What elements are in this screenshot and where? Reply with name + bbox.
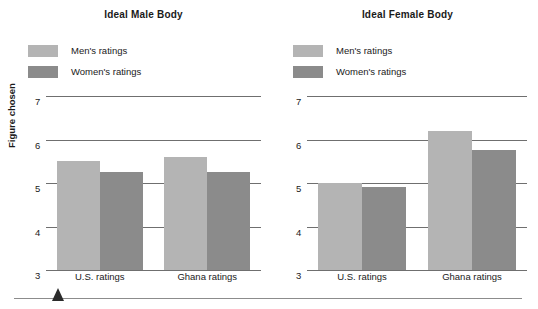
bars-male bbox=[46, 96, 261, 270]
bar-u-s-ratings-men-s-ratings bbox=[57, 161, 100, 270]
bar-u-s-ratings-women-s-ratings bbox=[100, 172, 143, 270]
y-tick-label-6: 6 bbox=[35, 141, 40, 151]
bars-female bbox=[307, 96, 527, 270]
y-tick-label-5: 5 bbox=[35, 184, 40, 194]
y-tick-label-7: 7 bbox=[35, 97, 40, 107]
legend-swatch-mens-ratings bbox=[293, 45, 323, 57]
panel-ideal-female-body: Ideal Female Body Men's ratings Women's … bbox=[269, 0, 538, 285]
legend-item-mens-ratings: Men's ratings bbox=[28, 42, 141, 59]
figure-two-panel-bar-charts: Ideal Male Body Men's ratings Women's ra… bbox=[0, 0, 538, 309]
plot-area-male: 34567 U.S. ratingsGhana ratings bbox=[46, 96, 261, 270]
legend-swatch-mens-ratings bbox=[28, 45, 58, 57]
bottom-triangle-marker bbox=[52, 288, 64, 301]
bar-ghana-ratings-men-s-ratings bbox=[164, 157, 207, 270]
panel-ideal-male-body: Ideal Male Body Men's ratings Women's ra… bbox=[0, 0, 269, 285]
legend-female: Men's ratings Women's ratings bbox=[293, 42, 406, 84]
plot-area-female: 34567 U.S. ratingsGhana ratings bbox=[307, 96, 527, 270]
x-axis-category-label: U.S. ratings bbox=[337, 271, 387, 282]
bar-u-s-ratings-men-s-ratings bbox=[318, 183, 362, 270]
bar-ghana-ratings-women-s-ratings bbox=[207, 172, 250, 270]
y-tick-label-5: 5 bbox=[296, 184, 301, 194]
x-axis-category-label: Ghana ratings bbox=[177, 271, 237, 282]
bar-ghana-ratings-women-s-ratings bbox=[472, 150, 516, 270]
legend-swatch-womens-ratings bbox=[293, 66, 323, 78]
legend-label-mens-ratings: Men's ratings bbox=[71, 45, 127, 56]
legend-item-womens-ratings: Women's ratings bbox=[28, 63, 141, 80]
bar-u-s-ratings-women-s-ratings bbox=[362, 187, 406, 270]
y-axis-label-male: Figure chosen bbox=[6, 136, 17, 148]
legend-label-womens-ratings: Women's ratings bbox=[71, 66, 141, 77]
y-tick-label-6: 6 bbox=[296, 141, 301, 151]
panel-title-male: Ideal Male Body bbox=[0, 9, 269, 20]
legend-swatch-womens-ratings bbox=[28, 66, 58, 78]
y-tick-label-3: 3 bbox=[35, 271, 40, 281]
x-axis-category-label: Ghana ratings bbox=[442, 271, 502, 282]
bottom-rule bbox=[14, 298, 522, 299]
legend-male: Men's ratings Women's ratings bbox=[28, 42, 141, 84]
y-tick-label-7: 7 bbox=[296, 97, 301, 107]
legend-label-mens-ratings: Men's ratings bbox=[336, 45, 392, 56]
bar-ghana-ratings-men-s-ratings bbox=[428, 131, 472, 270]
legend-item-mens-ratings: Men's ratings bbox=[293, 42, 406, 59]
legend-label-womens-ratings: Women's ratings bbox=[336, 66, 406, 77]
y-tick-label-4: 4 bbox=[296, 228, 301, 238]
x-axis-category-label: U.S. ratings bbox=[75, 271, 125, 282]
legend-item-womens-ratings: Women's ratings bbox=[293, 63, 406, 80]
y-tick-label-3: 3 bbox=[296, 271, 301, 281]
panel-title-female: Ideal Female Body bbox=[269, 9, 538, 20]
y-tick-label-4: 4 bbox=[35, 228, 40, 238]
